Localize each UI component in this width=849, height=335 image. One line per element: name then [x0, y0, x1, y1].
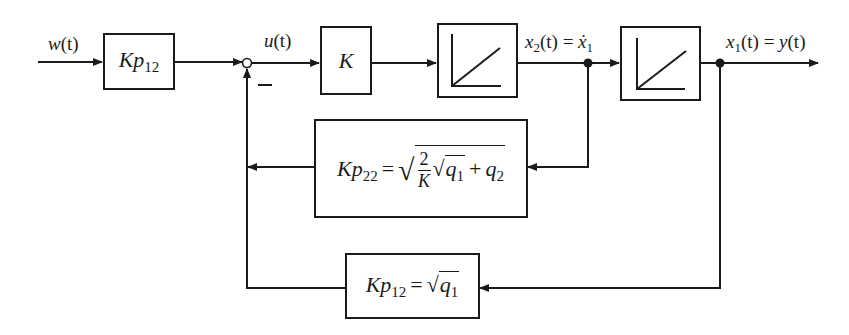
integrator2-block — [620, 26, 701, 101]
inner-feedback-wire — [528, 63, 588, 167]
outer-feedback-block: Kp12=√q1 — [345, 253, 480, 319]
prefilter-label: Kp12 — [119, 47, 160, 76]
signal-label-x1-y: x1(t) = y(t) — [726, 32, 805, 54]
signal-label-x2: x2(t) = ẋ1 — [525, 32, 593, 54]
signal-label-w: w(t) — [48, 34, 79, 53]
summing-junction — [243, 59, 252, 68]
prefilter-block: Kp12 — [103, 33, 175, 90]
outer-feedback-formula: Kp12=√q1 — [366, 271, 460, 301]
gain-label: K — [339, 48, 354, 74]
branch-point-x2 — [584, 59, 593, 68]
minus-sign — [258, 84, 272, 86]
inner-feedback-block: Kp22=√2K√q1+q2 — [314, 119, 528, 218]
inner-feedback-formula: Kp22=√2K√q1+q2 — [337, 145, 505, 192]
integrator1-block — [437, 23, 518, 98]
signal-label-u: u(t) — [264, 31, 291, 50]
branch-point-x1 — [716, 59, 725, 68]
gain-block: K — [320, 26, 372, 95]
